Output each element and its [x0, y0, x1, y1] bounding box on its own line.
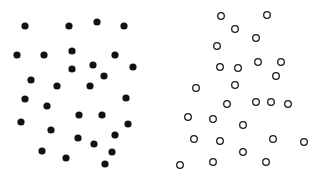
hollow-circle — [273, 73, 280, 80]
dot-comparison-diagram — [0, 0, 323, 183]
hollow-circle — [232, 26, 239, 33]
hollow-circle — [217, 138, 224, 145]
hollow-circle — [210, 116, 217, 123]
hollow-circle — [240, 149, 247, 156]
hollow-circle — [224, 101, 231, 108]
hollow-circle — [193, 85, 200, 92]
hollow-circle — [301, 139, 308, 146]
hollow-circle — [268, 99, 275, 106]
hollow-circle — [185, 114, 192, 121]
hollow-circle — [191, 136, 198, 143]
hollow-circle — [232, 82, 239, 89]
hollow-circle — [217, 64, 224, 71]
hollow-circle — [218, 13, 225, 20]
hollow-circle — [253, 99, 260, 106]
hollow-circle — [270, 136, 277, 143]
hollow-circle — [214, 43, 221, 50]
hollow-circle — [278, 59, 285, 66]
hollow-circle — [235, 65, 242, 72]
hollow-circle — [255, 59, 262, 66]
hollow-circle — [210, 159, 217, 166]
hollow-circles-panel — [0, 0, 323, 183]
hollow-circle — [240, 122, 247, 129]
hollow-circle — [253, 35, 260, 42]
hollow-circle — [177, 162, 184, 169]
hollow-circle — [263, 159, 270, 166]
hollow-circle — [264, 12, 271, 19]
hollow-circle — [285, 101, 292, 108]
